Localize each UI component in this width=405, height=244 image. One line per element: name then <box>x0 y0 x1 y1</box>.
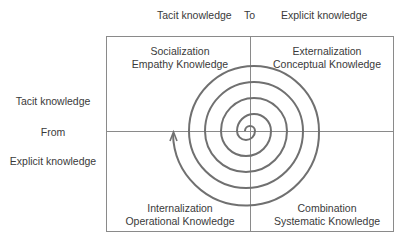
quadrant-externalization: Externalization Conceptual Knowledge <box>262 45 392 71</box>
knowledge-spiral <box>173 66 319 206</box>
quadrant-mode: Externalization <box>262 45 392 58</box>
quadrant-mode: Socialization <box>110 45 250 58</box>
quadrant-combination: Combination Systematic Knowledge <box>262 202 392 228</box>
quadrant-knowledge: Systematic Knowledge <box>262 215 392 228</box>
quadrant-knowledge: Operational Knowledge <box>110 215 250 228</box>
quadrant-internalization: Internalization Operational Knowledge <box>110 202 250 228</box>
quadrant-socialization: Socialization Empathy Knowledge <box>110 45 250 71</box>
quadrant-knowledge: Empathy Knowledge <box>110 58 250 71</box>
quadrant-mode: Combination <box>262 202 392 215</box>
quadrant-knowledge: Conceptual Knowledge <box>262 58 392 71</box>
quadrant-mode: Internalization <box>110 202 250 215</box>
